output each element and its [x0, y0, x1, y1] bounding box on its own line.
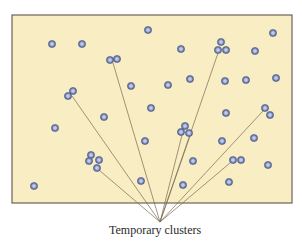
cluster-particle-dot — [113, 55, 120, 62]
cluster-particle-dot — [261, 104, 268, 111]
cluster-particle-dot — [185, 129, 192, 136]
cluster-particle-dot — [95, 156, 102, 163]
particle-dot — [30, 182, 37, 189]
particle-dot — [177, 45, 184, 52]
cluster-particle-dot — [106, 56, 113, 63]
particle-dot — [186, 75, 193, 82]
cluster-particle-dot — [237, 156, 244, 163]
cluster-particle-dot — [266, 111, 273, 118]
particle-field-svg — [0, 0, 302, 247]
particle-dot — [218, 137, 225, 144]
particle-dot — [78, 40, 85, 47]
particle-dot — [222, 109, 229, 116]
cluster-particle-dot — [229, 156, 236, 163]
temporary-clusters-label: Temporary clusters — [109, 223, 201, 238]
cluster-particle-dot — [93, 164, 100, 171]
particle-dot — [251, 47, 258, 54]
temporary-clusters-diagram: Temporary clusters — [0, 0, 302, 247]
particle-dot — [100, 113, 107, 120]
cluster-particle-dot — [85, 157, 92, 164]
particle-dot — [51, 124, 58, 131]
cluster-particle-dot — [177, 128, 184, 135]
particle-dot — [272, 74, 279, 81]
particle-dot — [48, 40, 55, 47]
particle-dot — [164, 81, 171, 88]
particle-dot — [144, 26, 151, 33]
particle-dot — [225, 178, 232, 185]
cluster-particle-dot — [214, 46, 221, 53]
cluster-particle-dot — [222, 46, 229, 53]
particle-dot — [269, 29, 276, 36]
cluster-particle-dot — [217, 38, 224, 45]
particle-dot — [264, 161, 271, 168]
particle-dot — [137, 177, 144, 184]
particle-dot — [250, 134, 257, 141]
particle-dot — [147, 104, 154, 111]
particle-dot — [242, 76, 249, 83]
cluster-particle-dot — [64, 92, 71, 99]
particle-dot — [179, 181, 186, 188]
particle-dot — [221, 77, 228, 84]
particle-dot — [141, 137, 148, 144]
particle-dot — [189, 157, 196, 164]
particle-dot — [127, 82, 134, 89]
